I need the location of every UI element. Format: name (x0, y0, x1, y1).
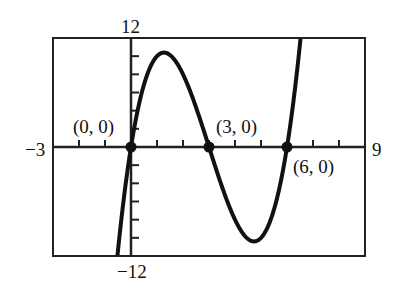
cubic-graph (0, 0, 398, 294)
point-label-origin: (0, 0) (73, 117, 114, 136)
intercept-point (204, 142, 215, 153)
x-max-label: 9 (372, 140, 382, 159)
intercept-point (126, 142, 137, 153)
y-max-label: 12 (121, 17, 140, 36)
x-min-label: −3 (25, 140, 45, 159)
intercept-point (282, 142, 293, 153)
y-min-label: −12 (117, 262, 147, 281)
point-label-3-0: (3, 0) (216, 117, 257, 136)
point-label-6-0: (6, 0) (293, 157, 334, 176)
